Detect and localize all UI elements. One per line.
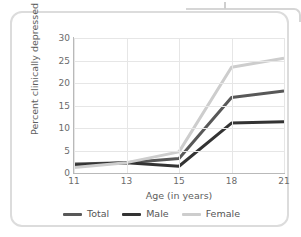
gridline-vertical xyxy=(179,38,180,173)
legend-label: Female xyxy=(206,209,240,219)
x-axis-title: Age (in years) xyxy=(74,191,284,201)
cropped-container-tick xyxy=(224,2,226,9)
legend-swatch-icon xyxy=(182,213,201,216)
gridline-vertical xyxy=(74,38,75,173)
legend-label: Total xyxy=(87,209,109,219)
legend-swatch-icon xyxy=(122,213,141,216)
gridline-vertical xyxy=(284,38,285,173)
legend-label: Male xyxy=(146,209,169,219)
chart-card: Percent clinically depressed 05101520253… xyxy=(10,11,289,227)
legend-item-female[interactable]: Female xyxy=(182,209,240,219)
y-tick-label: 30 xyxy=(48,34,70,43)
x-tick-label: 18 xyxy=(220,176,244,186)
chart-legend: TotalMaleFemale xyxy=(12,209,291,219)
x-tick-label: 13 xyxy=(115,176,139,186)
y-tick-label: 10 xyxy=(48,124,70,133)
x-tick-label: 21 xyxy=(272,176,296,186)
chart-figure: Percent clinically depressed 05101520253… xyxy=(12,13,287,225)
legend-item-male[interactable]: Male xyxy=(122,209,169,219)
y-tick-label: 25 xyxy=(48,57,70,66)
legend-swatch-icon xyxy=(63,213,82,216)
y-tick-label: 20 xyxy=(48,79,70,88)
y-tick-label: 5 xyxy=(48,147,70,156)
plot-area xyxy=(74,38,284,173)
y-axis-title: Percent clinically depressed xyxy=(30,5,40,135)
gridline-vertical xyxy=(232,38,233,173)
gridline-horizontal xyxy=(74,173,284,174)
legend-item-total[interactable]: Total xyxy=(63,209,109,219)
gridline-vertical xyxy=(127,38,128,173)
y-tick-label: 15 xyxy=(48,102,70,111)
x-tick-label: 15 xyxy=(167,176,191,186)
x-tick-label: 11 xyxy=(62,176,86,186)
